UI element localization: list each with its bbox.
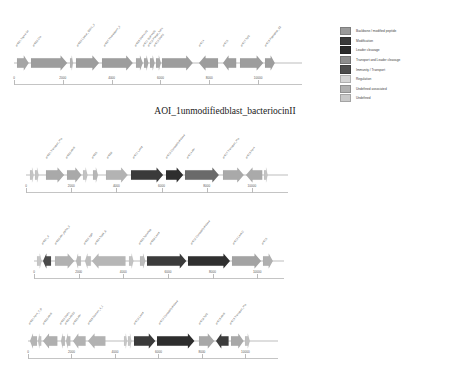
- axis-line: [28, 358, 278, 359]
- gene-arrow[interactable]: [38, 334, 41, 349]
- gene-label: orf002 AbrB: [66, 147, 77, 160]
- axis-tick: [79, 274, 80, 279]
- gene-arrow[interactable]: [144, 56, 148, 71]
- legend-item: Immunity / Transport: [340, 65, 446, 73]
- gene-arrow[interactable]: [102, 56, 133, 71]
- axis-tick-label: 6000: [157, 76, 164, 80]
- gene-arrow[interactable]: [147, 254, 186, 269]
- gene-label: orf013 LanKC: [233, 231, 245, 246]
- gene-arrow[interactable]: [263, 254, 273, 269]
- gene-arrow[interactable]: [131, 168, 163, 183]
- axis-tick-label: 0: [25, 184, 27, 188]
- gene-arrow[interactable]: [245, 334, 250, 349]
- axis-tick-label: 10000: [241, 350, 250, 354]
- gene-arrow[interactable]: [124, 334, 127, 349]
- axis-tick-label: 10000: [254, 76, 263, 80]
- axis-tick-label: 6000: [158, 184, 165, 188]
- gene-arrow[interactable]: [30, 168, 34, 183]
- legend-item-label: Backbone / modified peptide: [356, 29, 396, 33]
- axis-tick-label: 6000: [155, 350, 162, 354]
- axis-tick-label: 6000: [164, 270, 171, 274]
- gene-arrow[interactable]: [30, 334, 37, 349]
- gene-arrow[interactable]: [199, 56, 218, 71]
- legend-swatch-icon: [340, 94, 351, 102]
- axis-tick: [162, 188, 163, 193]
- gene-label: orf006: [107, 152, 114, 160]
- gene-arrow[interactable]: [232, 254, 261, 269]
- gene-arrow[interactable]: [128, 334, 131, 349]
- gene-arrow[interactable]: [162, 56, 193, 71]
- gene-label: orf001 Sigma-54: [16, 31, 30, 48]
- gene-arrow[interactable]: [43, 334, 57, 349]
- gene-arrow[interactable]: [76, 254, 81, 269]
- axis-tick-label: 2000: [75, 270, 82, 274]
- gene-label: orf017 TolC: [241, 35, 252, 48]
- gene-label: orf004 TcdA_E: [94, 230, 107, 246]
- gene-arrow[interactable]: [150, 56, 155, 71]
- axis-tick: [26, 188, 27, 193]
- gene-arrow[interactable]: [231, 334, 244, 349]
- gene-arrow[interactable]: [35, 168, 39, 183]
- legend-item-label: Regulation: [356, 77, 371, 81]
- axis-line: [26, 192, 288, 193]
- gene-arrow[interactable]: [199, 334, 214, 349]
- axis-tick: [202, 354, 203, 359]
- coordinate-axis: 0200040006000800010000: [14, 78, 302, 91]
- axis-tick-label: 8000: [209, 270, 216, 274]
- legend-swatch-icon: [340, 46, 351, 54]
- gene-arrow[interactable]: [188, 254, 230, 269]
- coordinate-axis: 0200040006000800010000: [34, 272, 284, 285]
- gene-arrow[interactable]: [92, 254, 125, 269]
- axis-tick-label: 8000: [198, 350, 205, 354]
- legend-item: Undefined associated: [340, 84, 446, 92]
- gene-arrow[interactable]: [216, 334, 229, 349]
- gene-arrow[interactable]: [156, 56, 161, 71]
- gene-arrow[interactable]: [66, 334, 70, 349]
- axis-tick: [28, 354, 29, 359]
- gene-arrow[interactable]: [76, 56, 99, 71]
- gene-arrow[interactable]: [134, 334, 155, 349]
- gene-arrow[interactable]: [166, 168, 183, 183]
- gene-arrow[interactable]: [185, 168, 219, 183]
- gene-label: orf015: [262, 238, 269, 246]
- legend-item: Transport and Leader cleavage: [340, 56, 446, 64]
- axis-tick: [213, 274, 214, 279]
- gene-arrow[interactable]: [17, 56, 29, 71]
- legend-swatch-icon: [340, 56, 351, 64]
- gene-arrow[interactable]: [73, 334, 86, 349]
- gene-arrow[interactable]: [106, 168, 128, 183]
- gene-arrow[interactable]: [88, 334, 105, 349]
- legend: Backbone / modified peptideModificationL…: [340, 27, 446, 104]
- gene-arrow[interactable]: [246, 168, 262, 183]
- gene-arrow[interactable]: [85, 254, 91, 269]
- gene-arrow[interactable]: [46, 168, 64, 183]
- gene-arrow[interactable]: [240, 56, 263, 71]
- gene-arrow[interactable]: [157, 334, 194, 349]
- gene-arrow[interactable]: [37, 254, 42, 269]
- axis-tick: [160, 80, 161, 85]
- gene-arrow[interactable]: [83, 168, 88, 183]
- gene-arrow[interactable]: [136, 56, 143, 71]
- gene-arrow[interactable]: [140, 254, 145, 269]
- axis-tick-label: 2000: [59, 76, 66, 80]
- gene-label: orf005: [92, 152, 99, 160]
- legend-swatch-icon: [340, 65, 351, 73]
- axis-tick: [158, 354, 159, 359]
- gene-arrow[interactable]: [31, 56, 67, 71]
- axis-tick: [257, 274, 258, 279]
- gene-arrow[interactable]: [264, 168, 268, 183]
- legend-swatch-icon: [340, 85, 351, 93]
- gene-arrow[interactable]: [61, 334, 65, 349]
- gene-arrow[interactable]: [223, 56, 236, 71]
- gene-arrow[interactable]: [265, 56, 275, 71]
- axis-line: [34, 278, 284, 279]
- gene-arrow[interactable]: [43, 254, 51, 269]
- legend-item-label: Transport and Leader cleavage: [356, 58, 400, 62]
- gene-arrow[interactable]: [67, 168, 81, 183]
- gene-arrow[interactable]: [223, 168, 244, 183]
- gene-arrow[interactable]: [93, 168, 98, 183]
- axis-tick-label: 0: [27, 350, 29, 354]
- gene-arrow[interactable]: [129, 254, 133, 269]
- gene-arrow[interactable]: [55, 254, 74, 269]
- gene-arrow[interactable]: [70, 56, 73, 71]
